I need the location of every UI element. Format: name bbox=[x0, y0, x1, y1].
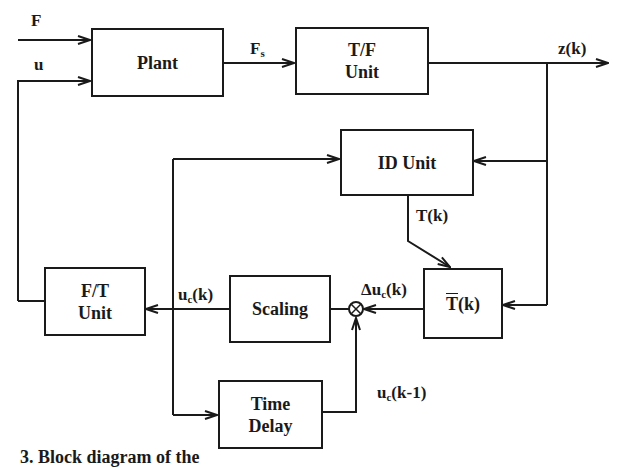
ft-unit-line2: Unit bbox=[78, 303, 112, 323]
signal-delta-uc-label: Δuc(k) bbox=[361, 281, 407, 303]
figure-caption: 3. Block diagram of the bbox=[20, 447, 200, 468]
signal-Tk-label: T(k) bbox=[416, 207, 448, 225]
signal-Fs-label: Fs bbox=[250, 40, 265, 62]
signal-uc-k1-label: uc(k-1) bbox=[377, 384, 426, 406]
scaling-block: Scaling bbox=[229, 275, 331, 343]
signal-zk-label: z(k) bbox=[558, 40, 586, 58]
id-unit-block: ID Unit bbox=[340, 129, 474, 196]
tf-unit-line1: T/F bbox=[348, 40, 376, 60]
ft-unit-block: F/T Unit bbox=[44, 267, 146, 336]
time-delay-line1: Time bbox=[251, 394, 291, 414]
plant-block: Plant bbox=[91, 28, 224, 97]
tf-unit-line2: Unit bbox=[345, 62, 379, 82]
plant-label: Plant bbox=[137, 52, 178, 74]
tf-unit-block: T/F Unit bbox=[295, 27, 429, 95]
time-delay-block: Time Delay bbox=[218, 380, 323, 449]
signal-u-label: u bbox=[34, 56, 43, 74]
id-unit-label: ID Unit bbox=[378, 152, 437, 174]
tbar-block: T(k) bbox=[423, 268, 503, 339]
scaling-label: Scaling bbox=[252, 298, 308, 320]
tbar-label: T(k) bbox=[446, 293, 480, 315]
signal-uc-label: uc(k) bbox=[178, 286, 213, 308]
signal-F-label: F bbox=[31, 12, 41, 30]
ft-unit-line1: F/T bbox=[81, 281, 109, 301]
time-delay-line2: Delay bbox=[249, 416, 293, 436]
